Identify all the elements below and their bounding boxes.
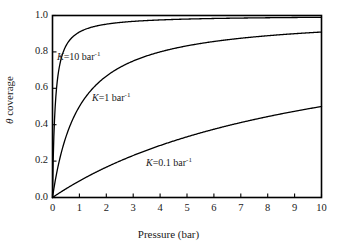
x-tick-label: 7 [231,202,251,213]
theta-symbol: θ [3,119,15,124]
curve-label-text: =1 bar [99,92,125,103]
plot-frame [53,16,322,198]
y-tick-label: 0.8 [22,45,48,56]
curve-label: K=10 bar-1 [57,51,100,62]
k-symbol: K [92,92,99,103]
y-tick-label: 0.0 [22,191,48,202]
y-tick-label: 0.2 [22,154,48,165]
x-tick-label: 5 [177,202,197,213]
curve-label: K=1 bar-1 [92,92,130,103]
y-axis-title-container: θ coverage [0,0,18,200]
curve-label: K=0.1 bar-1 [146,157,192,168]
curve-label-text: =0.1 bar [153,157,186,168]
curve-label-exponent: -1 [125,91,131,99]
x-tick-label: 4 [150,202,170,213]
x-tick-label: 1 [69,202,89,213]
y-axis-title-text: coverage [3,76,15,118]
curve-label-exponent: -1 [95,50,101,58]
y-tick-label: 1.0 [22,9,48,20]
x-tick-label: 3 [123,202,143,213]
x-tick-label: 6 [204,202,224,213]
x-tick-label: 2 [96,202,116,213]
x-tick-label: 9 [285,202,305,213]
y-tick-label: 0.6 [22,81,48,92]
x-tick-label: 0 [43,202,63,213]
x-axis-title: Pressure (bar) [0,228,337,240]
y-tick-label: 0.4 [22,118,48,129]
x-tick-label: 10 [312,202,332,213]
y-axis-title: θ coverage [3,76,15,124]
x-tick-label: 8 [258,202,278,213]
curve-label-exponent: -1 [186,156,192,164]
k-symbol: K [57,51,64,62]
chart-figure: θ coverage Pressure (bar) 012345678910 0… [0,0,337,247]
curve-label-text: =10 bar [64,51,95,62]
k-symbol: K [146,157,153,168]
